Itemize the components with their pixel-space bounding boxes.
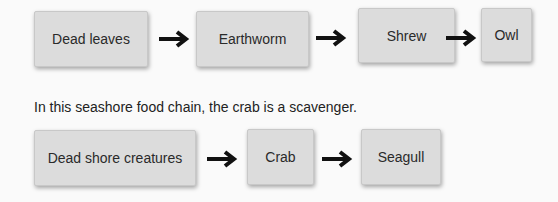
arrow-right-icon	[444, 28, 478, 48]
food-chain-node-shrew: Shrew	[358, 8, 455, 63]
node-label: Shrew	[387, 28, 427, 44]
arrow-right-icon	[205, 149, 239, 169]
node-label: Earthworm	[219, 31, 287, 47]
node-label: Dead leaves	[52, 31, 130, 47]
food-chain-node-earthworm: Earthworm	[196, 11, 309, 67]
node-label: Seagull	[378, 149, 425, 165]
arrow-right-icon	[320, 149, 354, 169]
node-label: Owl	[494, 27, 518, 43]
food-chain-node-crab: Crab	[247, 129, 314, 185]
food-chain-node-dead-leaves: Dead leaves	[34, 11, 148, 67]
arrow-right-icon	[157, 29, 191, 49]
food-chain-node-seagull: Seagull	[361, 129, 441, 185]
node-label: Dead shore creatures	[48, 150, 183, 166]
caption-text: In this seashore food chain, the crab is…	[34, 99, 357, 115]
node-label: Crab	[265, 149, 295, 165]
arrow-right-icon	[314, 28, 348, 48]
food-chain-node-dead-shore-creatures: Dead shore creatures	[34, 130, 196, 186]
food-chain-node-owl: Owl	[481, 8, 532, 62]
